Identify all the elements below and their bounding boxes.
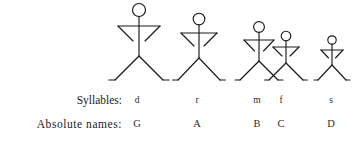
right-arm-line	[145, 26, 160, 41]
right-leg-line	[139, 56, 163, 80]
left-leg-line	[178, 58, 199, 80]
stick-figure-stage	[0, 0, 364, 88]
right-arm-line	[290, 47, 299, 56]
right-arm-line	[204, 33, 217, 46]
left-leg-line	[318, 65, 332, 80]
syllable-cell-5: s	[321, 88, 341, 112]
absolute-name-cell-4: C	[271, 112, 291, 136]
head-circle	[133, 4, 146, 17]
head-circle	[193, 13, 205, 25]
absolute-names-row-title: Absolute names:	[37, 112, 122, 136]
absolute-name-cell-1: G	[127, 112, 147, 136]
head-circle	[254, 22, 265, 33]
left-leg-line	[240, 61, 259, 80]
right-leg-line	[199, 58, 220, 80]
right-leg-line	[332, 65, 346, 80]
figures-group	[109, 4, 350, 81]
syllable-cell-3: m	[247, 88, 267, 112]
figure-so	[314, 36, 350, 80]
syllable-cell-4: f	[271, 88, 291, 112]
absolute-name-cell-2: A	[187, 112, 207, 136]
left-leg-line	[115, 56, 139, 80]
left-arm-line	[118, 26, 133, 41]
syllables-row-title: Syllables:	[77, 88, 122, 112]
left-arm-line	[244, 40, 255, 51]
label-table: Syllables: d r m f s Absolute names: G A…	[0, 88, 364, 136]
right-arm-line	[336, 50, 344, 58]
right-leg-line	[286, 63, 303, 80]
left-arm-line	[273, 47, 282, 56]
head-circle	[328, 36, 336, 44]
left-leg-line	[269, 63, 286, 80]
right-leg-line	[259, 61, 278, 80]
syllable-cell-2: r	[187, 88, 207, 112]
left-arm-line	[321, 50, 329, 58]
absolute-name-cell-3: B	[247, 112, 267, 136]
stick-figures-svg	[0, 0, 364, 88]
figure-mi	[235, 22, 283, 80]
absolute-name-cell-5: D	[321, 112, 341, 136]
syllable-cell-1: d	[127, 88, 147, 112]
absolute-names-row: Absolute names: G A B C D	[0, 112, 364, 136]
figure-re	[173, 13, 226, 80]
syllables-row: Syllables: d r m f s	[0, 88, 364, 112]
head-circle	[281, 31, 291, 41]
figure-do	[109, 4, 169, 81]
right-arm-line	[264, 40, 275, 51]
left-arm-line	[181, 33, 194, 46]
